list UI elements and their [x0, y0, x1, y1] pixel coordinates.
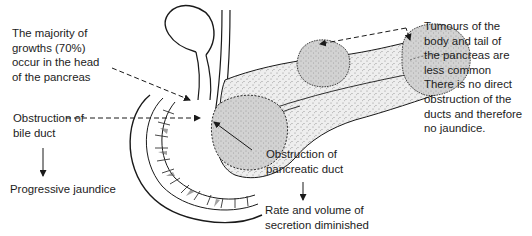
label-bile-duct-obstruction: Obstruction of bile duct [13, 111, 84, 140]
tumour-body [297, 40, 350, 87]
label-secretion-diminished: Rate and volume of secretion diminished [265, 203, 369, 232]
label-progressive-jaundice: Progressive jaundice [10, 182, 116, 197]
label-body-tail-tumours: Tumours of the body and tail of the panc… [424, 19, 522, 136]
label-head-growths: The majority of growths (70%) occur in t… [12, 26, 99, 84]
gallbladder [165, 6, 214, 100]
label-pancreatic-duct-obstruction: Obstruction of pancreatic duct [266, 147, 343, 176]
